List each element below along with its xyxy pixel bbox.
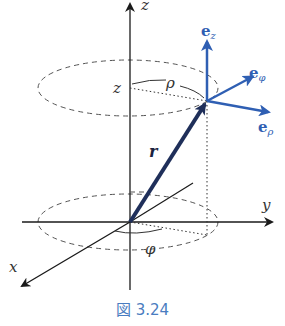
position-vector-r	[130, 104, 205, 222]
y-axis-label: y	[261, 196, 271, 214]
r-label: r	[149, 142, 159, 161]
unit-vector-e-phi	[207, 77, 252, 101]
x-axis-label: x	[9, 258, 18, 276]
e-z-label: ez	[201, 22, 217, 41]
unit-vector-e-rho	[207, 101, 268, 112]
phi-arc	[115, 229, 162, 233]
x-axis	[22, 222, 130, 286]
z-height-label: z	[112, 79, 121, 97]
x-axis-back	[130, 183, 193, 222]
phi-label: φ	[145, 240, 156, 258]
e-rho-label: eρ	[258, 118, 274, 137]
figure-caption: 図 3.24	[0, 298, 285, 319]
cylindrical-coordinates-diagram: z y x z ρ φ r ez eφ eρ	[0, 0, 285, 326]
rho-arc	[132, 80, 166, 84]
top-ellipse	[38, 60, 218, 116]
rho-label: ρ	[165, 74, 175, 92]
z-axis-label: z	[140, 0, 149, 14]
e-phi-label: eφ	[249, 64, 266, 83]
rho-arc-right	[180, 86, 204, 98]
